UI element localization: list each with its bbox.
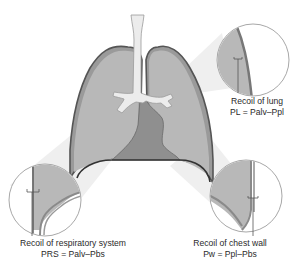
label-lung-formula: PL = Palv–Ppl <box>222 107 292 118</box>
label-respiratory-system-formula: PRS = Palv–Pbs <box>8 249 138 260</box>
lung-diagram <box>0 0 295 270</box>
label-lung-title: Recoil of lung <box>222 96 292 107</box>
label-recoil-of-respiratory-system: Recoil of respiratory system PRS = Palv–… <box>8 238 138 259</box>
label-recoil-of-chest-wall: Recoil of chest wall Pw = Ppl–Pbs <box>180 238 280 259</box>
label-chest-wall-formula: Pw = Ppl–Pbs <box>180 249 280 260</box>
label-recoil-of-lung: Recoil of lung PL = Palv–Ppl <box>222 96 292 117</box>
label-chest-wall-title: Recoil of chest wall <box>180 238 280 249</box>
label-respiratory-system-title: Recoil of respiratory system <box>8 238 138 249</box>
